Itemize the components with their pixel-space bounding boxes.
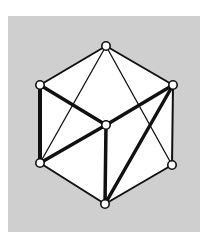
vertex-ul bbox=[36, 81, 44, 89]
vertex-lr bbox=[168, 161, 176, 169]
vertex-t bbox=[102, 42, 110, 50]
edge-c-b bbox=[105, 125, 106, 204]
vertex-c bbox=[102, 121, 110, 129]
vertex-ll bbox=[36, 159, 44, 167]
edge-ur-lr bbox=[172, 85, 173, 165]
vertex-b bbox=[101, 200, 109, 208]
graph-drawing bbox=[0, 0, 210, 241]
vertex-ur bbox=[169, 81, 177, 89]
diagram-stage bbox=[0, 0, 210, 241]
